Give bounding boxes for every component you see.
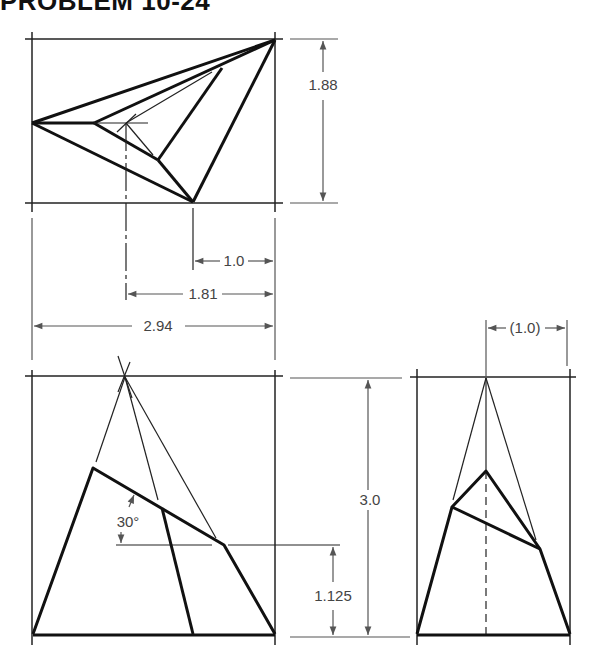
dim-label-1-81: 1.81: [188, 285, 217, 302]
side-view-object: [417, 471, 570, 635]
side-view-construction: [453, 378, 536, 635]
technical-drawing: 1.88 1.0 1.81 2.94: [0, 0, 592, 667]
dimension-1-125: 1.125: [290, 547, 410, 637]
dimension-paren-1-0: (1.0): [486, 319, 567, 376]
dim-label-30-degree: 30°: [117, 513, 140, 530]
front-view-frame: [25, 370, 283, 645]
side-view-frame: [410, 369, 576, 645]
dimension-2-94: 2.94: [34, 317, 273, 334]
dimension-1-88: 1.88: [290, 39, 338, 203]
dimension-1-81: 1.81: [128, 285, 273, 302]
top-view-object: [32, 40, 275, 202]
dim-label-1-88: 1.88: [308, 76, 337, 93]
front-view: 30° 1.125 3.0: [25, 356, 410, 645]
front-view-object: [33, 468, 275, 635]
dim-label-1-125: 1.125: [314, 587, 352, 604]
top-view: 1.88 1.0 1.81 2.94: [25, 32, 338, 360]
dimension-30-degree: 30°: [117, 495, 140, 543]
dim-label-1-0: 1.0: [224, 252, 245, 269]
dim-label-3-0: 3.0: [360, 491, 381, 508]
dimension-1-0: 1.0: [195, 252, 273, 269]
dim-label-2-94: 2.94: [143, 317, 172, 334]
dim-label-paren-1-0: (1.0): [510, 319, 541, 336]
side-view: (1.0): [410, 319, 576, 645]
